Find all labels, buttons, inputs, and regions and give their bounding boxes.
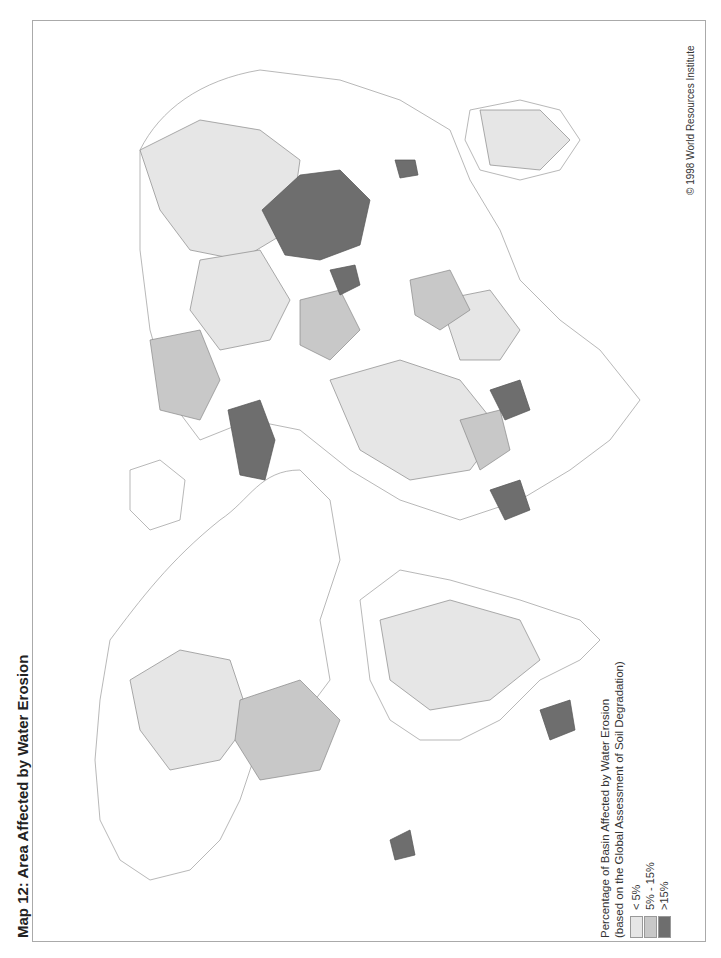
- copyright-text: © 1998 World Resources Institute: [685, 46, 696, 195]
- legend-swatch-mid: [644, 916, 657, 938]
- legend-label-low: < 5%: [630, 862, 644, 910]
- legend-label-high: >15%: [658, 862, 672, 910]
- legend-title-line2: (based on the Global Assessment of Soil …: [612, 638, 626, 938]
- legend-swatch-high: [658, 916, 671, 938]
- legend-swatch-low: [630, 916, 643, 938]
- legend-label-mid: 5% - 15%: [644, 862, 658, 910]
- legend-title-line1: Percentage of Basin Affected by Water Er…: [598, 638, 612, 938]
- legend: Percentage of Basin Affected by Water Er…: [598, 638, 672, 938]
